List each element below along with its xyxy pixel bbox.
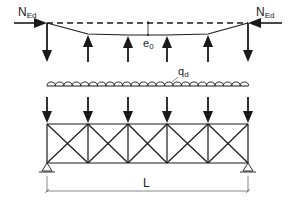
up-arrow-2 — [123, 36, 133, 62]
truss-node-load-arrows — [42, 97, 253, 123]
distributed-load — [47, 77, 249, 86]
imperfection-label: e0 — [143, 38, 154, 51]
support-right — [240, 163, 256, 172]
axial-force-right-label: NEd — [256, 6, 274, 20]
distributed-load-label: qd — [178, 66, 189, 79]
up-arrow-1 — [83, 35, 93, 62]
deflected-shape-line — [47, 23, 248, 35]
up-arrow-3 — [162, 36, 172, 62]
up-arrow-4 — [203, 35, 213, 62]
bracing-truss — [47, 124, 248, 163]
bracing-system-diagram: NEd NEd e0 qd L — [0, 0, 291, 206]
span-label: L — [143, 177, 150, 189]
end-reaction-arrow-left — [42, 23, 52, 62]
axial-force-left-label: NEd — [18, 6, 36, 20]
imperfection-dimension — [147, 21, 149, 36]
support-left — [39, 163, 55, 172]
end-reaction-arrow-right — [243, 23, 253, 62]
